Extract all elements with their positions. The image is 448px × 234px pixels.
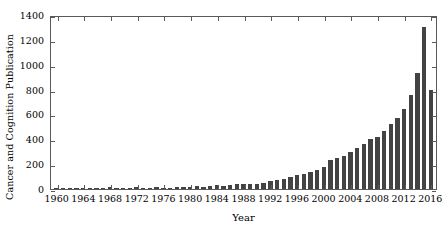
bar: [168, 188, 172, 189]
bar-slot: [153, 17, 160, 189]
bar: [68, 188, 72, 189]
plot-area: [50, 16, 437, 190]
bar: [255, 184, 259, 189]
bar: [348, 152, 352, 189]
x-tick-mark-top: [111, 17, 112, 21]
bar: [282, 179, 286, 189]
bar: [74, 188, 78, 189]
x-tick-mark-top: [191, 17, 192, 21]
y-tick-mark: [51, 141, 55, 142]
x-tick-mark: [58, 185, 59, 189]
x-tick-mark: [431, 185, 432, 189]
x-tick-mark-top: [218, 17, 219, 21]
bar-slot: [407, 17, 414, 189]
bar-slot: [307, 17, 314, 189]
bar-slot: [254, 17, 261, 189]
y-tick-mark: [51, 191, 55, 192]
bar-slot: [113, 17, 120, 189]
bar-series: [51, 17, 436, 189]
bar: [201, 187, 205, 189]
bar-slot: [374, 17, 381, 189]
bar-slot: [421, 17, 428, 189]
y-tick-mark: [51, 67, 55, 68]
x-tick-mark-top: [405, 17, 406, 21]
x-axis-label: Year: [50, 212, 437, 223]
y-tick-mark-right: [432, 166, 436, 167]
x-tick-label: 1996: [285, 194, 309, 204]
bar-slot: [300, 17, 307, 189]
bar-slot: [187, 17, 194, 189]
y-tick-mark-right: [432, 17, 436, 18]
y-tick-mark-right: [432, 92, 436, 93]
y-tick-mark: [51, 166, 55, 167]
bar: [235, 184, 239, 189]
bar: [422, 27, 426, 189]
x-tick-mark-top: [271, 17, 272, 21]
bar-slot: [321, 17, 328, 189]
x-tick-label: 1964: [71, 194, 95, 204]
bar: [315, 170, 319, 189]
y-tick-mark: [51, 92, 55, 93]
x-tick-mark: [218, 185, 219, 189]
x-tick-mark: [111, 185, 112, 189]
x-tick-label: 2012: [392, 194, 416, 204]
bar-slot: [214, 17, 221, 189]
bar: [275, 180, 279, 189]
x-tick-mark-top: [431, 17, 432, 21]
bar-slot: [274, 17, 281, 189]
x-tick-mark-top: [298, 17, 299, 21]
bar: [175, 187, 179, 189]
x-tick-label: 1972: [125, 194, 149, 204]
bar: [382, 131, 386, 189]
bar: [302, 174, 306, 189]
bar-slot: [334, 17, 341, 189]
y-tick-mark-right: [432, 141, 436, 142]
bar: [121, 188, 125, 189]
bar: [221, 186, 225, 189]
x-tick-label: 1960: [45, 194, 69, 204]
bar: [114, 188, 118, 189]
bar: [128, 188, 132, 189]
bar-slot: [207, 17, 214, 189]
x-tick-mark-top: [378, 17, 379, 21]
bar-slot: [314, 17, 321, 189]
bar: [208, 186, 212, 189]
bar: [88, 188, 92, 189]
x-tick-label: 1992: [258, 194, 282, 204]
x-tick-mark: [164, 185, 165, 189]
bar-slot: [227, 17, 234, 189]
x-tick-mark-top: [164, 17, 165, 21]
y-tick-mark-right: [432, 191, 436, 192]
x-tick-label: 2000: [311, 194, 335, 204]
bar-slot: [267, 17, 274, 189]
bar-slot: [167, 17, 174, 189]
bar: [409, 95, 413, 189]
bar-slot: [347, 17, 354, 189]
bar-slot: [327, 17, 334, 189]
bar-slot: [394, 17, 401, 189]
x-tick-label: 2004: [338, 194, 362, 204]
bar-slot: [147, 17, 154, 189]
bar-slot: [93, 17, 100, 189]
x-tick-label: 1988: [231, 194, 255, 204]
x-tick-label: 1980: [178, 194, 202, 204]
bar: [415, 73, 419, 189]
x-tick-mark: [84, 185, 85, 189]
bar: [228, 185, 232, 189]
x-tick-mark: [191, 185, 192, 189]
bar: [288, 177, 292, 189]
bar: [375, 137, 379, 189]
x-tick-label: 1984: [205, 194, 229, 204]
bar: [195, 186, 199, 189]
bar: [261, 183, 265, 189]
x-tick-label: 1976: [151, 194, 175, 204]
bar: [362, 144, 366, 189]
bar: [328, 160, 332, 189]
bar-slot: [60, 17, 67, 189]
bar-slot: [381, 17, 388, 189]
bar-slot: [361, 17, 368, 189]
bar-slot: [86, 17, 93, 189]
x-tick-mark-top: [58, 17, 59, 21]
bar-slot: [234, 17, 241, 189]
bar-slot: [220, 17, 227, 189]
